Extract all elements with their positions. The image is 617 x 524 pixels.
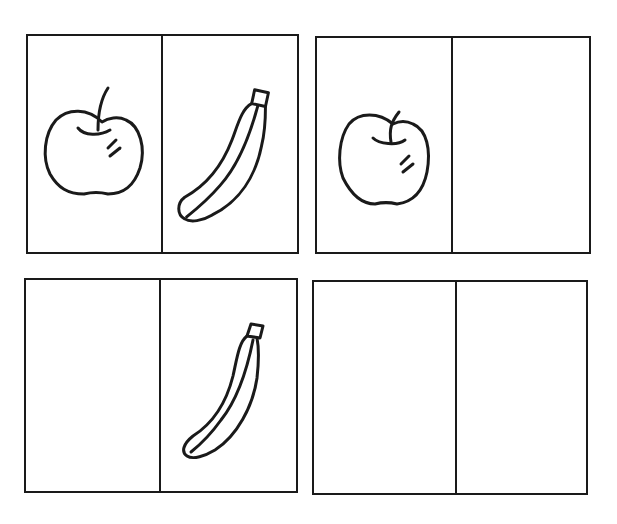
- card-top-left: apple banana: [26, 34, 299, 254]
- cell-top-right-2: [453, 38, 589, 252]
- apple-icon: [28, 36, 161, 252]
- card-bottom-right: [312, 280, 588, 495]
- banana-icon: [163, 36, 297, 252]
- apple-icon: [317, 38, 451, 252]
- card-bottom-left: banana: [24, 278, 298, 493]
- banana-icon: [161, 280, 296, 491]
- cell-bottom-right-2: [457, 282, 586, 493]
- cell-bottom-left-1: [26, 280, 159, 491]
- card-top-right: apple: [315, 36, 591, 254]
- cell-top-left-1: apple: [28, 36, 161, 252]
- cell-bottom-right-1: [314, 282, 455, 493]
- cell-bottom-left-2: banana: [161, 280, 296, 491]
- cell-top-right-1: apple: [317, 38, 451, 252]
- cell-top-left-2: banana: [163, 36, 297, 252]
